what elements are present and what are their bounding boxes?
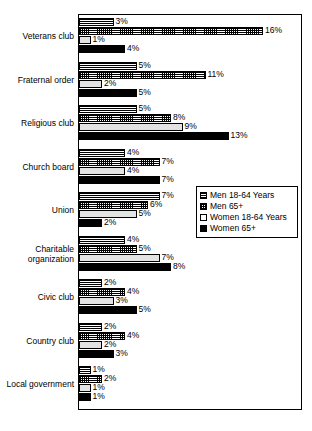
- bar-value-label: 1%: [93, 35, 105, 44]
- bar-value-label: 1%: [93, 365, 105, 374]
- bar-value-label: 2%: [104, 340, 116, 349]
- bar-value-label: 5%: [139, 305, 151, 314]
- legend-label-women-18-64: Women 18-64 Years: [210, 213, 287, 222]
- bar-value-label: 13%: [231, 131, 248, 140]
- bar: [79, 192, 160, 200]
- bar-value-label: 7%: [162, 253, 174, 262]
- bar-value-label: 4%: [127, 287, 139, 296]
- bar: [79, 297, 114, 305]
- category-label: Charitable organization: [0, 244, 74, 264]
- bar: [79, 167, 125, 175]
- bar: [79, 18, 114, 26]
- bar-value-label: 8%: [173, 113, 185, 122]
- bar: [79, 366, 91, 374]
- bar: [79, 62, 137, 70]
- legend-label-men-18-64: Men 18-64 Years: [210, 191, 274, 200]
- bar-value-label: 5%: [139, 244, 151, 253]
- bar: [79, 114, 171, 122]
- bar-value-label: 11%: [208, 70, 224, 79]
- bar-value-label: 16%: [265, 26, 282, 35]
- bar-value-label: 3%: [116, 296, 128, 305]
- bar: [79, 89, 137, 97]
- legend-label-men-65: Men 65+: [210, 202, 243, 211]
- bar-value-label: 2%: [104, 374, 116, 383]
- bar: [79, 27, 263, 35]
- category-label: Union: [0, 205, 74, 215]
- bar: [79, 393, 91, 401]
- bar-value-label: 2%: [104, 322, 116, 331]
- bar: [79, 80, 102, 88]
- bar: [79, 263, 171, 271]
- bar: [79, 158, 160, 166]
- bar: [79, 279, 102, 287]
- bar: [79, 45, 125, 53]
- chart-legend: Men 18-64 Years Men 65+ Women 18-64 Year…: [196, 186, 298, 238]
- bar: [79, 350, 114, 358]
- bar-value-label: 1%: [93, 392, 105, 401]
- legend-swatch-men-65: [200, 203, 207, 210]
- bar: [79, 201, 148, 209]
- bar-value-label: 4%: [127, 166, 139, 175]
- bar: [79, 341, 102, 349]
- bar: [79, 323, 102, 331]
- bar-chart: Veterans club3%16%1%4%Fraternal order5%1…: [0, 0, 312, 431]
- bar: [79, 245, 137, 253]
- bar-value-label: 4%: [127, 235, 139, 244]
- bar-value-label: 4%: [127, 331, 139, 340]
- bar: [79, 149, 125, 157]
- bar-value-label: 2%: [104, 218, 116, 227]
- bar-value-label: 2%: [104, 79, 116, 88]
- bar: [79, 219, 102, 227]
- bar-value-label: 5%: [139, 61, 151, 70]
- bar: [79, 132, 229, 140]
- legend-swatch-men-18-64: [200, 192, 207, 199]
- bar-value-label: 5%: [139, 209, 151, 218]
- bar: [79, 36, 91, 44]
- bar-value-label: 7%: [162, 157, 174, 166]
- category-label: Civic club: [0, 292, 74, 302]
- bar-value-label: 7%: [162, 191, 174, 200]
- bar-value-label: 3%: [116, 17, 128, 26]
- legend-label-women-65: Women 65+: [210, 224, 256, 233]
- legend-item-women-65: Women 65+: [200, 223, 293, 234]
- bar: [79, 105, 137, 113]
- bar: [79, 306, 137, 314]
- bar-value-label: 5%: [139, 104, 151, 113]
- legend-item-men-65: Men 65+: [200, 201, 293, 212]
- legend-item-men-18-64: Men 18-64 Years: [200, 190, 293, 201]
- bar-value-label: 6%: [150, 200, 162, 209]
- bar-value-label: 2%: [104, 278, 116, 287]
- bar: [79, 236, 125, 244]
- legend-swatch-women-65: [200, 225, 207, 232]
- bar: [79, 176, 160, 184]
- category-label: Local government: [0, 379, 74, 389]
- bar: [79, 71, 206, 79]
- category-label: Church board: [0, 162, 74, 172]
- bar-value-label: 3%: [116, 349, 128, 358]
- category-label: Country club: [0, 336, 74, 346]
- legend-item-women-18-64: Women 18-64 Years: [200, 212, 293, 223]
- bar: [79, 254, 160, 262]
- bar-value-label: 4%: [127, 148, 139, 157]
- bar: [79, 384, 91, 392]
- bar-value-label: 5%: [139, 88, 151, 97]
- legend-swatch-women-18-64: [200, 214, 207, 221]
- bar-value-label: 9%: [185, 122, 197, 131]
- bar-value-label: 7%: [162, 175, 174, 184]
- category-label: Fraternal order: [0, 75, 74, 85]
- bar: [79, 123, 183, 131]
- category-label: Veterans club: [0, 31, 74, 41]
- bar: [79, 332, 125, 340]
- category-label: Religious club: [0, 118, 74, 128]
- bar-value-label: 8%: [173, 262, 185, 271]
- bar-value-label: 4%: [127, 44, 139, 53]
